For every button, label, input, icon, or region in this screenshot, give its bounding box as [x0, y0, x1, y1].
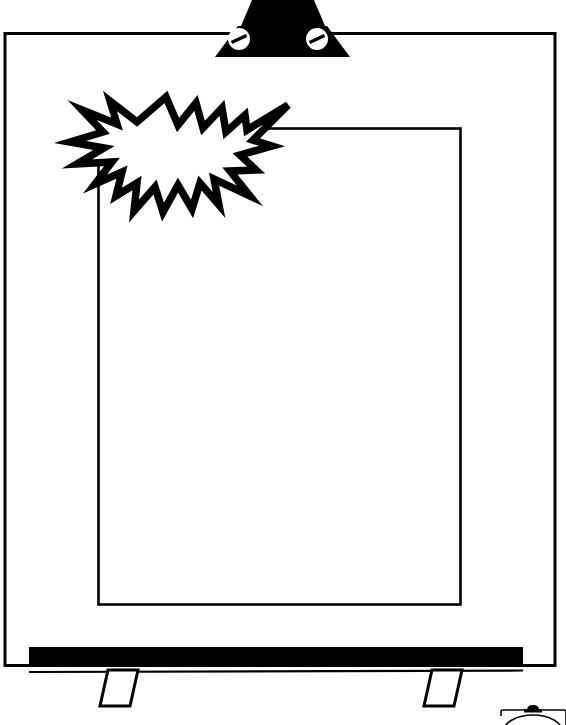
clamp-tab [241, 0, 325, 26]
marker-tray [29, 647, 523, 667]
watermark-knob-base [524, 709, 542, 713]
clamp-screw-left [228, 28, 250, 50]
clamp-screw-right [306, 28, 328, 50]
easel-illustration [0, 0, 566, 725]
paper-sheet [99, 129, 461, 605]
leg-right [424, 670, 462, 706]
leg-left [100, 670, 138, 706]
clipart-canvas: Blank Easel With Starburst [0, 0, 566, 725]
